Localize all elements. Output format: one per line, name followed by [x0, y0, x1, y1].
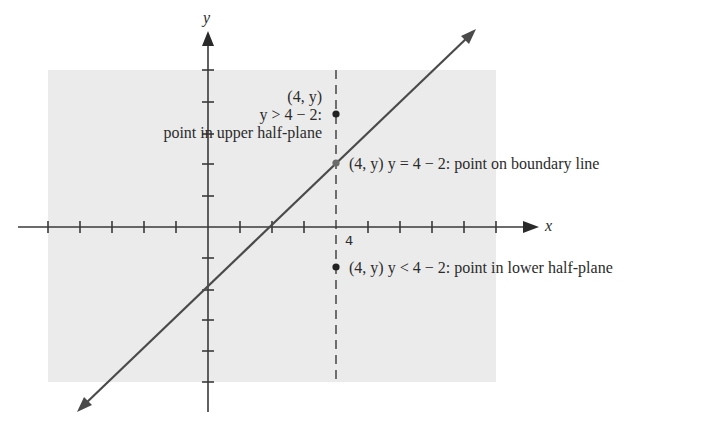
x-tick-label-4: 4: [345, 232, 353, 250]
upper-point-label: (4, y): [287, 88, 322, 105]
upper-inequality-label: y > 4 − 2:: [260, 106, 323, 123]
y-axis-label: y: [203, 9, 210, 27]
annotation-upper-point: (4, y): [90, 88, 322, 106]
lower-point-label: (4, y): [349, 259, 384, 276]
lower-description-label: y < 4 − 2: point in lower half-plane: [388, 259, 613, 276]
half-plane-diagram: [0, 0, 715, 432]
x-axis-arrow-icon: [523, 221, 539, 233]
upper-description-label: point in upper half-plane: [163, 124, 322, 141]
annotation-upper: (4, y) y > 4 − 2: point in upper half-pl…: [90, 88, 322, 142]
annotation-upper-description: point in upper half-plane: [90, 124, 322, 142]
annotation-lower: (4, y) y < 4 − 2: point in lower half-pl…: [349, 259, 613, 277]
annotation-upper-inequality: y > 4 − 2:: [90, 106, 322, 124]
point-on-boundary: [332, 159, 339, 166]
boundary-description-label: y = 4 − 2: point on boundary line: [388, 155, 600, 172]
point-lower-half-plane: [332, 263, 339, 270]
annotation-boundary: (4, y) y = 4 − 2: point on boundary line: [349, 155, 599, 173]
x-axis-label: x: [545, 217, 552, 235]
boundary-point-label: (4, y): [349, 155, 384, 172]
y-axis-arrow-icon: [202, 31, 214, 46]
point-upper-half-plane: [332, 110, 339, 117]
